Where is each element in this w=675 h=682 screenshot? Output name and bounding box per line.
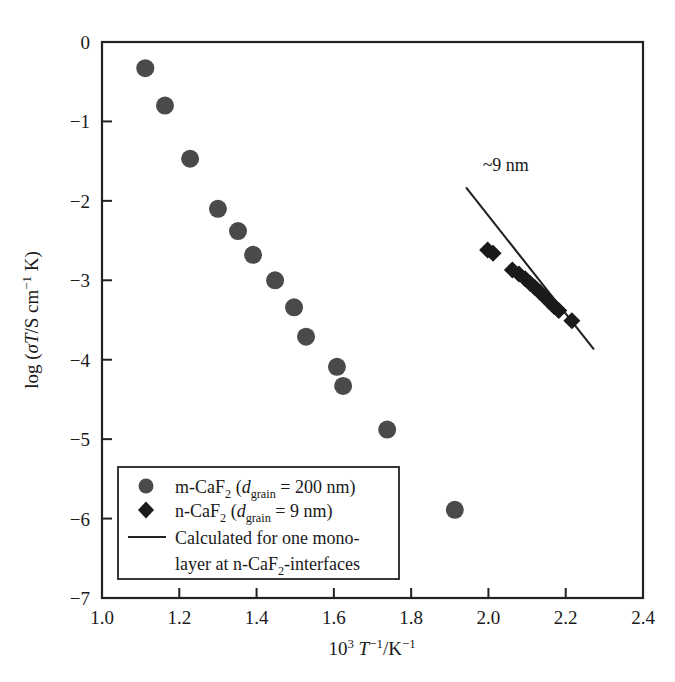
data-point-circle	[244, 246, 262, 264]
data-point-circle	[266, 271, 284, 289]
x-tick-label: 2.2	[554, 607, 578, 628]
y-tick-label: −7	[70, 588, 90, 609]
x-tick-label: 1.4	[245, 607, 269, 628]
data-point-circle	[285, 298, 303, 316]
x-tick-label: 1.0	[90, 607, 114, 628]
x-title-var-exp: −1	[369, 636, 383, 651]
data-point-circle	[328, 358, 346, 376]
x-tick-label: 1.6	[322, 607, 346, 628]
y-title-log: log (	[21, 353, 43, 388]
x-tick-label: 2.0	[477, 607, 501, 628]
y-tick-label: −1	[70, 111, 90, 132]
legend-n-ital-sub: grain	[246, 511, 271, 525]
data-point-circle	[136, 59, 154, 77]
data-point-circle	[446, 501, 464, 519]
x-tick-label: 1.2	[167, 607, 191, 628]
legend-label-calculated-line1: Calculated for one mono-	[175, 528, 359, 548]
legend-m-pre: m-CaF	[175, 477, 225, 497]
y-tick-label: −6	[70, 509, 90, 530]
data-point-circle	[209, 200, 227, 218]
x-title-unit-exp: −1	[402, 636, 416, 651]
legend-m-post: = 200 nm)	[276, 477, 356, 498]
legend-n-pre: n-CaF	[175, 501, 220, 521]
y-axis-title: log (σT/S cm−1 K)	[19, 251, 43, 389]
legend-c-pre: layer at n-CaF	[175, 554, 278, 574]
data-point-circle	[297, 328, 315, 346]
y-tick-label: −3	[70, 270, 90, 291]
legend-m-ital-sub: grain	[251, 487, 276, 501]
y-title-unit: /S cm	[21, 290, 42, 334]
y-axis-tick-labels: 0−1−2−3−4−5−6−7	[70, 32, 91, 609]
legend-n-mid: (	[226, 501, 237, 522]
x-axis-ticks	[102, 588, 643, 598]
figure-container: 1.01.21.41.61.82.02.22.4 0−1−2−3−4−5−6−7…	[0, 0, 675, 682]
data-point-circle	[181, 150, 199, 168]
y-title-k: K)	[21, 251, 43, 276]
y-tick-label: −5	[70, 429, 90, 450]
legend-marker-circle	[139, 479, 154, 494]
legend-n-post: = 9 nm)	[271, 501, 333, 522]
y-tick-label: −4	[70, 350, 91, 371]
x-tick-label: 1.8	[399, 607, 423, 628]
y-tick-label: 0	[81, 32, 91, 53]
y-title-sigma: σT	[21, 332, 42, 353]
x-axis-title: 103 T−1/K−1	[328, 636, 415, 659]
legend-m-mid: (	[231, 477, 242, 498]
annotation-9nm: ~9 nm	[483, 155, 529, 175]
data-point-circle	[156, 97, 174, 115]
x-tick-label: 2.4	[631, 607, 655, 628]
x-title-unit: /K	[383, 638, 402, 659]
series-m-caf2-circles	[136, 59, 464, 519]
x-title-base: 10	[328, 638, 347, 659]
legend-c-post: -interfaces	[284, 554, 360, 574]
series-n-caf2-diamonds	[479, 242, 580, 330]
y-axis-ticks	[102, 42, 112, 598]
data-point-circle	[378, 421, 396, 439]
y-tick-label: −2	[70, 191, 90, 212]
y-title-exp: −1	[19, 276, 34, 290]
x-axis-tick-labels: 1.01.21.41.61.82.02.22.4	[90, 607, 655, 628]
data-point-circle	[334, 377, 352, 395]
data-point-circle	[229, 222, 247, 240]
scatter-plot: 1.01.21.41.61.82.02.22.4 0−1−2−3−4−5−6−7…	[0, 0, 675, 682]
